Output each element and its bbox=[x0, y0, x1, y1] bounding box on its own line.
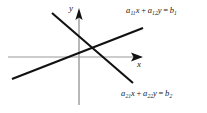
eq-top-equals-operator: = bbox=[162, 5, 170, 15]
linear-system-figure: y x a11x+a12y=b1 a21x+a22y=b2 bbox=[0, 0, 207, 113]
eq-top-coef-1-subscript: 11 bbox=[130, 10, 135, 16]
eq-bottom-rhs-subscript: 2 bbox=[170, 93, 173, 99]
eq-top-plus-operator: + bbox=[140, 5, 148, 15]
equation-label-top: a11x+a12y=b1 bbox=[126, 6, 177, 15]
figure-canvas bbox=[0, 0, 207, 113]
equation-label-bottom: a21x+a22y=b2 bbox=[121, 89, 172, 98]
eq-bottom-coef-2-subscript: 22 bbox=[147, 93, 153, 99]
eq-top-rhs-subscript: 1 bbox=[174, 10, 177, 16]
eq-top-coef-2-subscript: 12 bbox=[152, 10, 158, 16]
y-axis-label: y bbox=[69, 4, 73, 13]
x-axis-label: x bbox=[137, 60, 141, 69]
eq-bottom-plus-operator: + bbox=[135, 88, 143, 98]
equation-line-2 bbox=[52, 13, 133, 83]
eq-bottom-coef-1-subscript: 21 bbox=[125, 93, 131, 99]
eq-bottom-rhs: b bbox=[165, 88, 169, 98]
eq-bottom-equals-operator: = bbox=[157, 88, 165, 98]
